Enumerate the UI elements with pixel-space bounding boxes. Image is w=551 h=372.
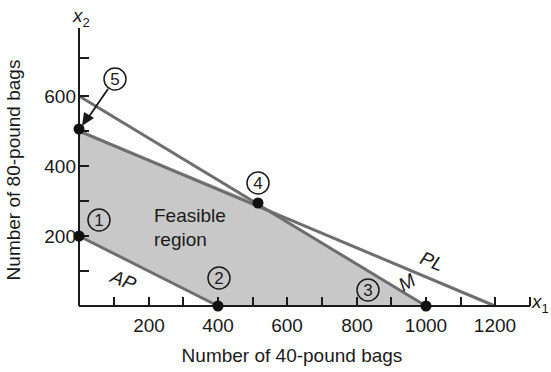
x-axis-symbol: x1: [531, 291, 549, 316]
svg-text:5: 5: [110, 70, 119, 89]
region-label-line2: region: [154, 229, 207, 250]
x-tick-label-200: 200: [133, 315, 165, 336]
point-5-label: 5: [104, 68, 126, 90]
svg-text:4: 4: [253, 174, 262, 193]
point-1-marker: [74, 231, 85, 242]
point-3-marker: [421, 301, 432, 312]
svg-text:2: 2: [214, 269, 223, 288]
point-4-marker: [253, 198, 264, 209]
x-tick-label-1000: 1000: [405, 315, 447, 336]
y-axis-symbol: x2: [72, 5, 90, 30]
y-axis-title: Number of 80-pound bags: [3, 60, 24, 281]
x-tick-label-800: 800: [341, 315, 373, 336]
x-tick-label-600: 600: [271, 315, 303, 336]
x-tick-label-400: 400: [202, 315, 234, 336]
label-ap: AP: [107, 265, 140, 294]
feasible-region-chart: 200 400 600 800 1000 1200 200 400 600 x2…: [0, 0, 551, 372]
x-tick-label-1200: 1200: [474, 315, 516, 336]
y-tick-label-600: 600: [44, 86, 76, 107]
arrow-icon: [82, 89, 108, 126]
label-pl: PL: [417, 247, 446, 275]
svg-text:3: 3: [363, 281, 372, 300]
region-label-line1: Feasible: [154, 205, 226, 226]
point-2-marker: [213, 301, 224, 312]
x-axis-title: Number of 40-pound bags: [182, 345, 403, 366]
svg-text:1: 1: [94, 211, 103, 230]
y-tick-label-400: 400: [44, 156, 76, 177]
point-4-label: 4: [247, 172, 269, 194]
y-tick-label-200: 200: [44, 226, 76, 247]
